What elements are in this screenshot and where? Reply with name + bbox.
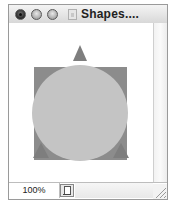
horizontal-scrollbar[interactable] xyxy=(75,183,153,198)
zoom-button[interactable] xyxy=(47,9,58,20)
shapes-drawing xyxy=(9,23,155,183)
top-triangle[interactable] xyxy=(73,45,87,61)
document-icon[interactable] xyxy=(68,9,77,20)
light-circle[interactable] xyxy=(32,65,128,161)
minimize-button[interactable] xyxy=(31,9,42,20)
resize-grip-icon[interactable] xyxy=(153,184,167,199)
document-window: Shapes.... 100% xyxy=(8,4,168,200)
window-title: Shapes.... xyxy=(81,7,139,21)
zoom-level-field[interactable]: 100% xyxy=(9,183,60,198)
title-bar[interactable]: Shapes.... xyxy=(9,5,167,24)
page-icon[interactable] xyxy=(60,184,74,197)
close-button[interactable] xyxy=(15,9,26,20)
status-bar: 100% xyxy=(9,182,167,199)
vertical-scrollbar[interactable] xyxy=(153,23,167,183)
drawing-canvas[interactable] xyxy=(9,23,155,183)
